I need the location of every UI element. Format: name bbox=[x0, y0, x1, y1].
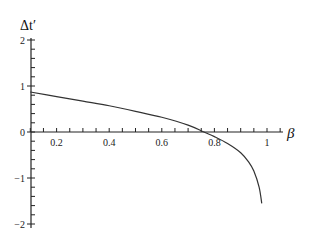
y-ticks bbox=[27, 40, 35, 224]
y-axis-label: Δt′ bbox=[20, 18, 36, 33]
y-tick-label: 0 bbox=[20, 127, 25, 138]
x-tick-label: 0.6 bbox=[156, 137, 169, 148]
x-tick-labels: 0.20.40.60.81 bbox=[50, 137, 269, 148]
y-tick-label: 2 bbox=[20, 35, 25, 46]
x-axis-label: β bbox=[286, 125, 295, 141]
y-tick-label: 1 bbox=[20, 81, 25, 92]
x-tick-label: 0.2 bbox=[50, 137, 63, 148]
y-tick-labels: 210−1−2 bbox=[14, 35, 25, 230]
x-tick-label: 1 bbox=[265, 137, 270, 148]
y-tick-label: −1 bbox=[14, 173, 25, 184]
y-tick-label: −2 bbox=[14, 219, 25, 230]
data-line bbox=[30, 92, 261, 203]
x-tick-label: 0.4 bbox=[103, 137, 116, 148]
chart: Δt′ β 0.20.40.60.81 210−1−2 bbox=[0, 0, 310, 241]
axes bbox=[27, 38, 283, 228]
